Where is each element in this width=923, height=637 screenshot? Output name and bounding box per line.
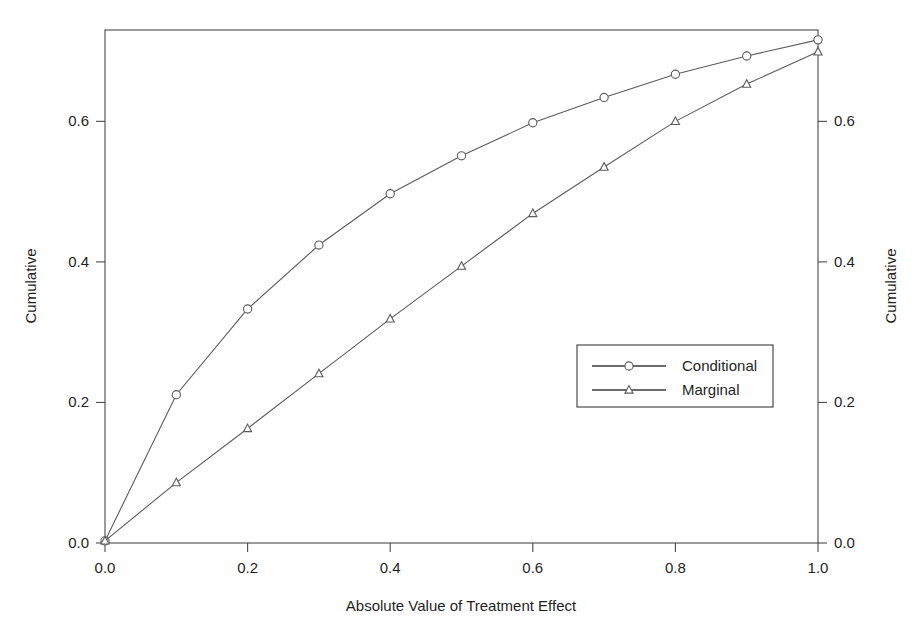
legend-marker-circle bbox=[625, 362, 633, 370]
chart-background bbox=[0, 0, 923, 637]
data-point-marker bbox=[457, 152, 465, 160]
y-tick-label-left: 0.6 bbox=[68, 112, 89, 129]
legend-label: Marginal bbox=[682, 381, 740, 398]
y-tick-label-left: 0.2 bbox=[68, 393, 89, 410]
y-tick-label-right: 0.4 bbox=[834, 253, 855, 270]
chart-figure: 0.00.20.40.60.81.0 0.00.20.40.6 0.00.20.… bbox=[0, 0, 923, 637]
y-tick-label-left: 0.0 bbox=[68, 534, 89, 551]
y-tick-label-left: 0.4 bbox=[68, 253, 89, 270]
data-point-marker bbox=[671, 70, 679, 78]
x-axis-title: Absolute Value of Treatment Effect bbox=[346, 597, 577, 614]
x-tick-label: 0.0 bbox=[95, 559, 116, 576]
cumulative-distribution-chart: 0.00.20.40.60.81.0 0.00.20.40.6 0.00.20.… bbox=[0, 0, 923, 637]
x-tick-label: 0.8 bbox=[665, 559, 686, 576]
x-tick-label: 0.4 bbox=[380, 559, 401, 576]
chart-legend[interactable]: ConditionalMarginal bbox=[577, 345, 773, 407]
x-tick-label: 1.0 bbox=[808, 559, 829, 576]
y-axis-title-left: Cumulative bbox=[22, 248, 39, 323]
data-point-marker bbox=[244, 305, 252, 313]
legend-label: Conditional bbox=[682, 357, 757, 374]
y-tick-label-right: 0.0 bbox=[834, 534, 855, 551]
y-axis-title-right: Cumulative bbox=[882, 248, 899, 323]
data-point-marker bbox=[172, 391, 180, 399]
x-tick-label: 0.6 bbox=[522, 559, 543, 576]
y-tick-label-right: 0.6 bbox=[834, 112, 855, 129]
legend-box bbox=[577, 345, 773, 407]
data-point-marker bbox=[600, 93, 608, 101]
data-point-marker bbox=[529, 119, 537, 127]
data-point-marker bbox=[814, 36, 822, 44]
y-tick-label-right: 0.2 bbox=[834, 393, 855, 410]
x-tick-label: 0.2 bbox=[237, 559, 258, 576]
data-point-marker bbox=[386, 190, 394, 198]
data-point-marker bbox=[743, 52, 751, 60]
data-point-marker bbox=[315, 241, 323, 249]
